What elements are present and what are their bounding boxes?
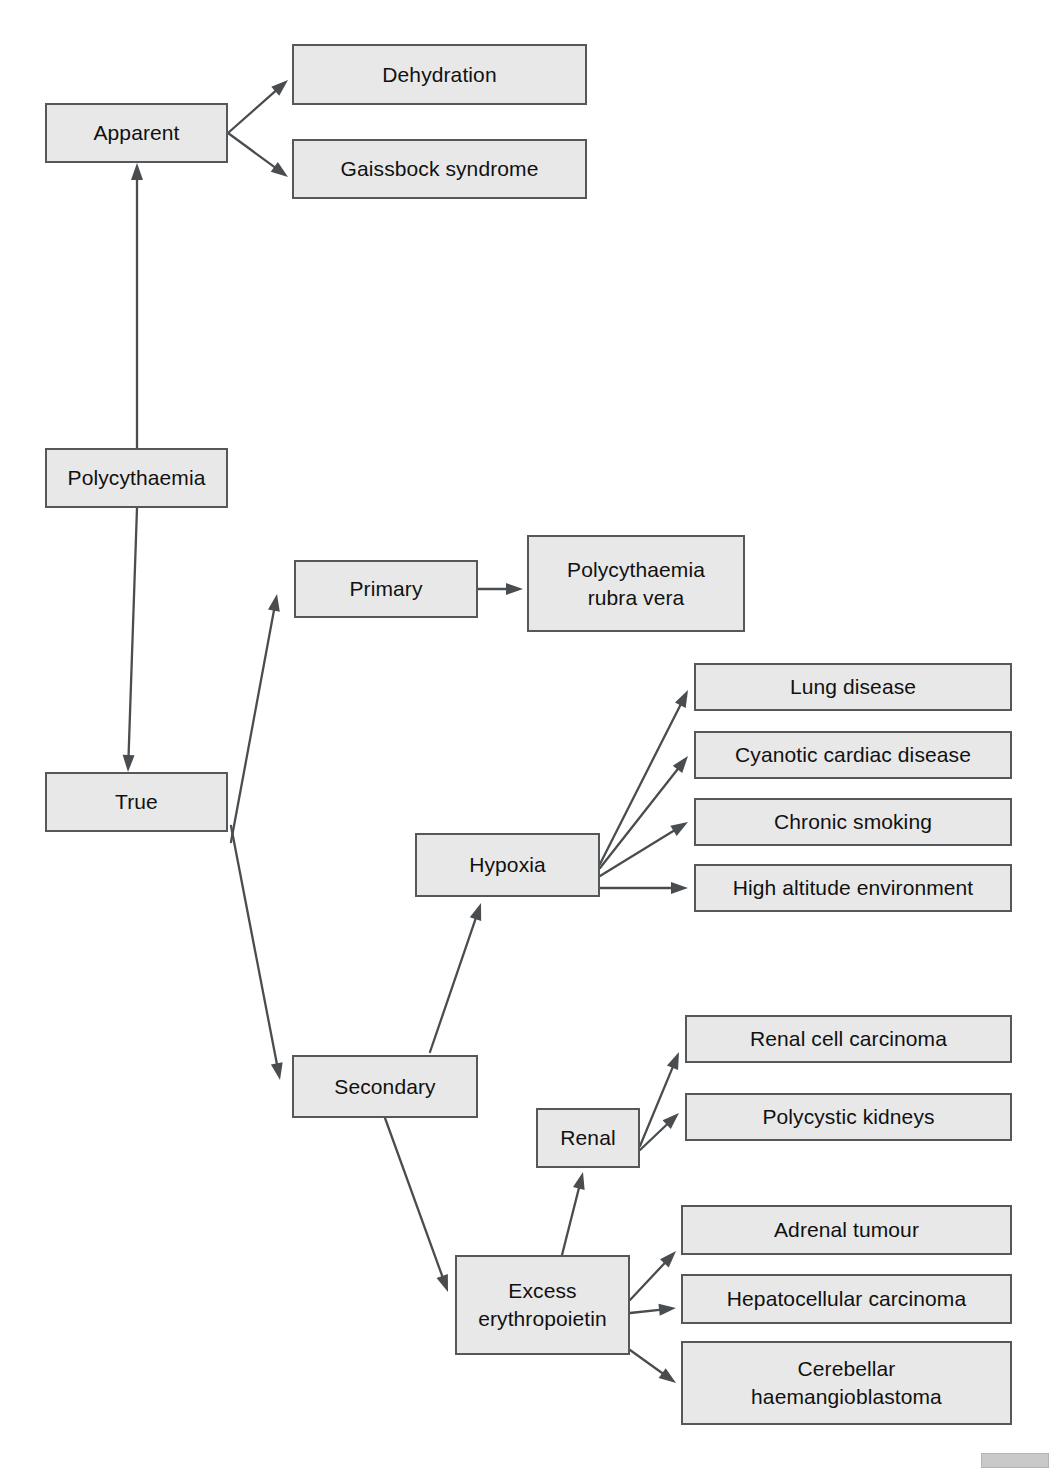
node-label-cyanotic: Cyanotic cardiac disease (735, 741, 971, 769)
arrowhead-end-hypoxia-smoking (670, 822, 688, 836)
edge-line-excess-adrenal (630, 1260, 668, 1300)
node-polycystic[interactable]: Polycystic kidneys (685, 1093, 1012, 1141)
node-dehydration[interactable]: Dehydration (292, 44, 587, 105)
node-excess_epo[interactable]: Excess erythropoietin (455, 1255, 630, 1355)
edge-hypoxia-altitude (600, 882, 688, 894)
edge-apparent-gaissbock (228, 133, 288, 177)
edge-line-hypoxia-lung (600, 701, 683, 864)
node-label-rcc: Renal cell carcinoma (750, 1025, 947, 1053)
arrowhead-end-renal-polycystic (663, 1113, 679, 1129)
edge-secondary-excess (385, 1118, 448, 1292)
node-label-polycythaemia: Polycythaemia (68, 464, 206, 492)
node-label-adrenal: Adrenal tumour (774, 1216, 919, 1244)
node-gaissbock[interactable]: Gaissbock syndrome (292, 139, 587, 199)
arrowhead-end-secondary-hypoxia (470, 903, 481, 921)
node-label-polycystic: Polycystic kidneys (762, 1103, 934, 1131)
edge-line-apparent-gaissbock (228, 133, 278, 170)
edge-line-excess-renal (562, 1184, 580, 1255)
node-primary[interactable]: Primary (294, 560, 478, 618)
edge-line-excess-hepatocellular (630, 1309, 664, 1313)
edge-renal-polycystic (640, 1113, 679, 1150)
edge-secondary-hypoxia (430, 903, 481, 1052)
arrowhead-end-apparent-dehydration (271, 80, 288, 96)
arrowhead-end-excess-adrenal (660, 1251, 676, 1268)
arrowhead-end-apparent-gaissbock (271, 162, 288, 177)
arrowhead-end-excess-cerebellar (659, 1368, 676, 1383)
arrowhead-end-true-secondary (271, 1062, 283, 1080)
node-rcc[interactable]: Renal cell carcinoma (685, 1015, 1012, 1063)
page-corner-artifact (981, 1453, 1049, 1468)
edge-excess-cerebellar (630, 1350, 676, 1383)
edge-line-true-primary (231, 606, 275, 842)
arrowhead-end-polycythaemia-apparent (131, 163, 143, 180)
edge-true-primary (231, 594, 280, 842)
edge-line-true-secondary (231, 826, 278, 1068)
node-prv[interactable]: Polycythaemia rubra vera (527, 535, 745, 632)
node-label-hepatocellular: Hepatocellular carcinoma (727, 1285, 966, 1313)
node-hepatocellular[interactable]: Hepatocellular carcinoma (681, 1274, 1012, 1324)
arrowhead-end-primary-prv (506, 583, 523, 595)
arrowhead-end-excess-hepatocellular (658, 1304, 676, 1316)
flowchart-canvas: PolycythaemiaApparentDehydrationGaissboc… (0, 0, 1057, 1476)
edge-true-secondary (231, 826, 283, 1080)
node-renal[interactable]: Renal (536, 1108, 640, 1168)
node-secondary[interactable]: Secondary (292, 1055, 478, 1118)
node-label-smoking: Chronic smoking (774, 808, 932, 836)
node-label-secondary: Secondary (334, 1073, 435, 1101)
node-label-hypoxia: Hypoxia (469, 851, 546, 879)
node-cyanotic[interactable]: Cyanotic cardiac disease (694, 731, 1012, 779)
edge-primary-prv (478, 583, 523, 595)
node-adrenal[interactable]: Adrenal tumour (681, 1205, 1012, 1255)
arrowhead-end-hypoxia-altitude (671, 882, 688, 894)
node-label-apparent: Apparent (93, 119, 179, 147)
node-label-true: True (115, 788, 158, 816)
node-label-primary: Primary (349, 575, 422, 603)
edge-line-apparent-dehydration (228, 88, 279, 133)
node-label-lung: Lung disease (790, 673, 916, 701)
node-label-altitude: High altitude environment (733, 874, 974, 902)
node-cerebellar[interactable]: Cerebellar haemangioblastoma (681, 1341, 1012, 1425)
edge-line-hypoxia-smoking (600, 828, 678, 876)
edge-excess-renal (562, 1172, 585, 1255)
node-label-dehydration: Dehydration (382, 61, 496, 89)
edge-hypoxia-lung (600, 690, 688, 864)
page-top-artifact (0, 0, 420, 14)
node-smoking[interactable]: Chronic smoking (694, 798, 1012, 846)
edge-line-excess-cerebellar (630, 1350, 666, 1376)
edge-excess-adrenal (630, 1251, 676, 1300)
edge-line-polycythaemia-true (128, 508, 137, 760)
edge-apparent-dehydration (228, 80, 288, 133)
arrowhead-end-secondary-excess (437, 1274, 448, 1292)
edge-renal-rcc (640, 1052, 679, 1146)
arrowhead-end-renal-rcc (667, 1052, 679, 1070)
edge-line-secondary-excess (385, 1118, 444, 1281)
node-apparent[interactable]: Apparent (45, 103, 228, 163)
arrowhead-end-hypoxia-cyanotic (673, 756, 688, 773)
node-altitude[interactable]: High altitude environment (694, 864, 1012, 912)
node-hypoxia[interactable]: Hypoxia (415, 833, 600, 897)
edge-line-hypoxia-cyanotic (600, 765, 681, 868)
arrowhead-end-excess-renal (573, 1172, 585, 1190)
edge-hypoxia-smoking (600, 822, 688, 876)
node-true[interactable]: True (45, 772, 228, 832)
edge-excess-hepatocellular (630, 1304, 676, 1316)
arrowhead-end-polycythaemia-true (123, 755, 135, 772)
edge-line-renal-polycystic (640, 1121, 670, 1150)
arrowhead-end-hypoxia-lung (675, 690, 688, 708)
node-polycythaemia[interactable]: Polycythaemia (45, 448, 228, 508)
node-label-cerebellar: Cerebellar haemangioblastoma (751, 1355, 942, 1410)
node-label-excess_epo: Excess erythropoietin (478, 1277, 607, 1332)
edge-line-secondary-hypoxia (430, 914, 477, 1052)
node-label-prv: Polycythaemia rubra vera (567, 556, 705, 611)
node-label-renal: Renal (560, 1124, 615, 1152)
node-label-gaissbock: Gaissbock syndrome (341, 155, 539, 183)
edge-hypoxia-cyanotic (600, 756, 688, 868)
edge-polycythaemia-apparent (131, 163, 143, 448)
edge-polycythaemia-true (123, 508, 137, 772)
arrowhead-end-true-primary (268, 594, 280, 612)
node-lung[interactable]: Lung disease (694, 663, 1012, 711)
edge-line-renal-rcc (640, 1063, 674, 1146)
